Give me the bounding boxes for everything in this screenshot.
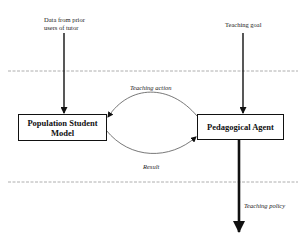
input-label-prior-data: Data from prior users of tutor [44,16,86,31]
node-pedagogical-agent: Pedagogical Agent [197,114,284,140]
edge-label-result: Result [143,163,159,171]
edge-result [106,130,196,153]
node-label-agent: Pedagogical Agent [207,122,274,132]
output-label-teaching-policy: Teaching policy [244,202,285,210]
input-label-teaching-goal: Teaching goal [225,21,262,29]
node-label-student-model: Population Student Model [25,118,100,138]
edge-label-teaching-action: Teaching action [130,84,171,92]
edge-teaching-action [108,92,197,117]
node-population-student-model: Population Student Model [18,114,107,141]
